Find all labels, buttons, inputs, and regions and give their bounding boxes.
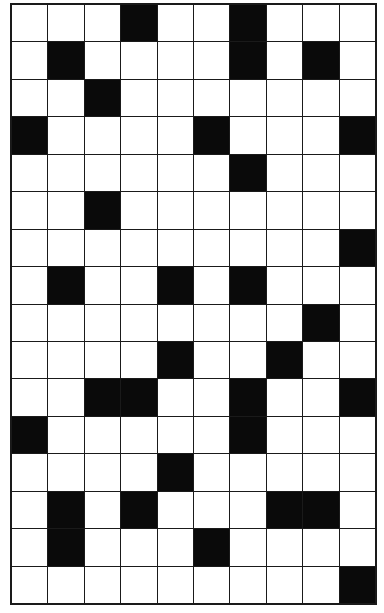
white-cell[interactable] (85, 454, 120, 490)
white-cell[interactable] (194, 417, 229, 453)
white-cell[interactable] (85, 567, 120, 603)
white-cell[interactable] (340, 192, 375, 228)
white-cell[interactable] (12, 342, 47, 378)
white-cell[interactable] (12, 529, 47, 565)
white-cell[interactable] (158, 155, 193, 191)
white-cell[interactable] (303, 417, 338, 453)
white-cell[interactable] (12, 379, 47, 415)
white-cell[interactable] (340, 267, 375, 303)
white-cell[interactable] (48, 192, 83, 228)
white-cell[interactable] (267, 42, 302, 78)
white-cell[interactable] (12, 42, 47, 78)
white-cell[interactable] (48, 379, 83, 415)
white-cell[interactable] (230, 230, 265, 266)
white-cell[interactable] (340, 492, 375, 528)
white-cell[interactable] (48, 305, 83, 341)
white-cell[interactable] (158, 379, 193, 415)
white-cell[interactable] (121, 342, 156, 378)
white-cell[interactable] (340, 454, 375, 490)
white-cell[interactable] (48, 155, 83, 191)
white-cell[interactable] (303, 379, 338, 415)
white-cell[interactable] (121, 529, 156, 565)
white-cell[interactable] (158, 417, 193, 453)
white-cell[interactable] (230, 80, 265, 116)
white-cell[interactable] (194, 42, 229, 78)
white-cell[interactable] (303, 267, 338, 303)
white-cell[interactable] (158, 529, 193, 565)
white-cell[interactable] (267, 192, 302, 228)
white-cell[interactable] (340, 417, 375, 453)
white-cell[interactable] (85, 529, 120, 565)
white-cell[interactable] (303, 230, 338, 266)
white-cell[interactable] (267, 454, 302, 490)
white-cell[interactable] (230, 117, 265, 153)
white-cell[interactable] (158, 305, 193, 341)
white-cell[interactable] (230, 492, 265, 528)
white-cell[interactable] (85, 417, 120, 453)
white-cell[interactable] (303, 192, 338, 228)
white-cell[interactable] (194, 305, 229, 341)
white-cell[interactable] (194, 155, 229, 191)
white-cell[interactable] (267, 305, 302, 341)
white-cell[interactable] (303, 5, 338, 41)
white-cell[interactable] (194, 230, 229, 266)
white-cell[interactable] (85, 155, 120, 191)
white-cell[interactable] (194, 379, 229, 415)
white-cell[interactable] (303, 155, 338, 191)
white-cell[interactable] (303, 529, 338, 565)
white-cell[interactable] (121, 117, 156, 153)
white-cell[interactable] (267, 117, 302, 153)
white-cell[interactable] (121, 80, 156, 116)
white-cell[interactable] (48, 454, 83, 490)
white-cell[interactable] (194, 567, 229, 603)
white-cell[interactable] (194, 454, 229, 490)
white-cell[interactable] (121, 42, 156, 78)
white-cell[interactable] (230, 567, 265, 603)
white-cell[interactable] (48, 567, 83, 603)
white-cell[interactable] (12, 492, 47, 528)
white-cell[interactable] (12, 155, 47, 191)
white-cell[interactable] (340, 42, 375, 78)
white-cell[interactable] (48, 117, 83, 153)
white-cell[interactable] (121, 192, 156, 228)
white-cell[interactable] (230, 305, 265, 341)
white-cell[interactable] (85, 305, 120, 341)
white-cell[interactable] (340, 305, 375, 341)
white-cell[interactable] (48, 5, 83, 41)
white-cell[interactable] (340, 155, 375, 191)
white-cell[interactable] (340, 5, 375, 41)
white-cell[interactable] (85, 5, 120, 41)
white-cell[interactable] (230, 342, 265, 378)
white-cell[interactable] (85, 342, 120, 378)
white-cell[interactable] (158, 567, 193, 603)
white-cell[interactable] (85, 117, 120, 153)
white-cell[interactable] (340, 342, 375, 378)
white-cell[interactable] (121, 305, 156, 341)
white-cell[interactable] (303, 567, 338, 603)
white-cell[interactable] (158, 42, 193, 78)
white-cell[interactable] (158, 5, 193, 41)
white-cell[interactable] (194, 267, 229, 303)
white-cell[interactable] (267, 155, 302, 191)
white-cell[interactable] (12, 5, 47, 41)
white-cell[interactable] (230, 529, 265, 565)
white-cell[interactable] (48, 80, 83, 116)
white-cell[interactable] (12, 454, 47, 490)
white-cell[interactable] (194, 80, 229, 116)
white-cell[interactable] (121, 454, 156, 490)
white-cell[interactable] (12, 305, 47, 341)
white-cell[interactable] (121, 417, 156, 453)
white-cell[interactable] (303, 454, 338, 490)
white-cell[interactable] (158, 80, 193, 116)
white-cell[interactable] (267, 5, 302, 41)
white-cell[interactable] (48, 342, 83, 378)
white-cell[interactable] (12, 267, 47, 303)
white-cell[interactable] (158, 492, 193, 528)
white-cell[interactable] (267, 529, 302, 565)
white-cell[interactable] (48, 417, 83, 453)
white-cell[interactable] (194, 492, 229, 528)
white-cell[interactable] (194, 5, 229, 41)
white-cell[interactable] (85, 230, 120, 266)
white-cell[interactable] (267, 379, 302, 415)
white-cell[interactable] (12, 567, 47, 603)
